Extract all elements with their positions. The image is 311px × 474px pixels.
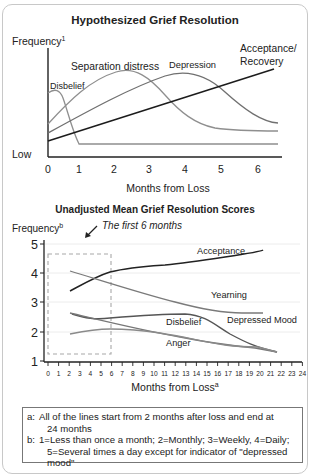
- svg-text:13: 13: [182, 370, 190, 377]
- annotation-first-six-months: The first 6 months: [102, 220, 182, 231]
- svg-text:6: 6: [255, 163, 261, 175]
- svg-text:20: 20: [256, 370, 264, 377]
- top-y-low-label: Low: [12, 148, 32, 160]
- svg-text:7: 7: [120, 370, 124, 377]
- label-yearning: Yearning: [211, 290, 247, 300]
- svg-text:9: 9: [142, 370, 146, 377]
- svg-text:5: 5: [31, 238, 38, 252]
- svg-text:1: 1: [76, 163, 82, 175]
- series-separation-distress: [48, 70, 278, 131]
- label-separation-distress: Separation distress: [71, 61, 159, 72]
- bottom-y-tick-labels: 5 4 3 2 1: [31, 238, 38, 369]
- top-x-ticks: 0 1 2 3 4 5 6: [45, 163, 261, 175]
- svg-text:18: 18: [235, 370, 243, 377]
- svg-text:22: 22: [278, 370, 286, 377]
- svg-text:4: 4: [89, 370, 93, 377]
- label-depression: Depression: [169, 60, 216, 70]
- svg-text:2: 2: [67, 370, 71, 377]
- svg-text:3: 3: [146, 163, 152, 175]
- svg-text:21: 21: [267, 370, 275, 377]
- svg-text:23: 23: [288, 370, 296, 377]
- label-disbelief: Disbelief: [166, 317, 202, 327]
- svg-text:19: 19: [246, 370, 254, 377]
- svg-text:2: 2: [31, 326, 38, 340]
- svg-text:5: 5: [218, 163, 224, 175]
- svg-text:24: 24: [299, 370, 307, 377]
- svg-text:17: 17: [225, 370, 233, 377]
- label-acceptance: Acceptance: [197, 246, 245, 256]
- footnote-b: b: 1=Less than once a month; 2=Monthly; …: [27, 434, 298, 446]
- bottom-chart-title: Unadjusted Mean Grief Resolution Scores: [55, 204, 255, 215]
- label-anger: Anger: [166, 338, 191, 348]
- svg-text:6: 6: [110, 370, 114, 377]
- series-disbelief-hyp: [48, 90, 278, 144]
- top-chart-title: Hypothesized Grief Resolution: [71, 14, 238, 26]
- svg-text:10: 10: [150, 370, 158, 377]
- svg-text:4: 4: [31, 267, 38, 281]
- footnote-a-text-1: All of the lines start from 2 months aft…: [39, 411, 274, 423]
- svg-text:1: 1: [31, 355, 38, 369]
- first-six-months-box: [48, 254, 111, 354]
- top-x-axis-label: Months from Loss: [126, 182, 209, 194]
- series-acceptance: [70, 250, 263, 291]
- bottom-x-tick-labels: 0123456789101112131415161718192021222324: [46, 370, 306, 377]
- svg-text:11: 11: [161, 370, 168, 377]
- svg-text:3: 3: [78, 370, 82, 377]
- footnote-b-key: b:: [27, 434, 39, 446]
- bottom-x-axis-label: Months from Lossa: [131, 381, 218, 393]
- footnotes-box: a: All of the lines start from 2 months …: [22, 407, 303, 463]
- svg-text:5: 5: [99, 370, 103, 377]
- svg-text:3: 3: [31, 296, 38, 310]
- svg-text:8: 8: [131, 370, 135, 377]
- svg-text:14: 14: [193, 370, 201, 377]
- svg-text:1: 1: [57, 370, 61, 377]
- svg-text:15: 15: [203, 370, 211, 377]
- annotation-arrow-icon: [85, 226, 97, 238]
- svg-text:2: 2: [111, 163, 117, 175]
- footnote-b-text-1: 1=Less than once a month; 2=Monthly; 3=W…: [39, 434, 289, 446]
- svg-text:4: 4: [182, 163, 188, 175]
- bottom-chart: Unadjusted Mean Grief Resolution Scores …: [12, 204, 306, 393]
- label-disbelief-hyp: Disbelief: [50, 81, 85, 91]
- label-acceptance-recovery-2: Recovery: [240, 56, 284, 67]
- footnote-a: a: All of the lines start from 2 months …: [27, 411, 298, 423]
- bottom-y-axis-label: Frequencyb: [12, 222, 63, 234]
- svg-text:0: 0: [46, 370, 50, 377]
- svg-text:0: 0: [45, 163, 51, 175]
- label-depressed-mood: Depressed Mood: [227, 315, 297, 325]
- charts-canvas: Hypothesized Grief Resolution Frequency1…: [0, 0, 311, 405]
- top-y-axis-label: Frequency1: [12, 35, 66, 47]
- footnote-a-key: a:: [27, 411, 39, 423]
- footnote-a-text-2: 24 months: [27, 423, 298, 435]
- top-chart: Hypothesized Grief Resolution Frequency1…: [12, 14, 297, 194]
- svg-text:16: 16: [214, 370, 222, 377]
- label-acceptance-recovery-1: Acceptance/: [240, 43, 297, 54]
- footnote-b-text-2: 5=Several times a day except for indicat…: [27, 446, 298, 469]
- svg-text:12: 12: [172, 370, 180, 377]
